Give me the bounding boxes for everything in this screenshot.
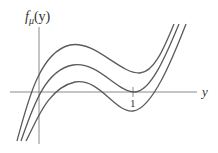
x-axis-label: y <box>200 84 208 99</box>
upper-curve <box>17 24 174 141</box>
middle-curve <box>21 24 179 141</box>
cubic-family-plot: fμ(y) y 1 <box>0 0 218 153</box>
lower-curve <box>26 24 186 141</box>
y-axis-label: fμ(y) <box>25 9 51 26</box>
tick-label-1: 1 <box>130 97 136 109</box>
